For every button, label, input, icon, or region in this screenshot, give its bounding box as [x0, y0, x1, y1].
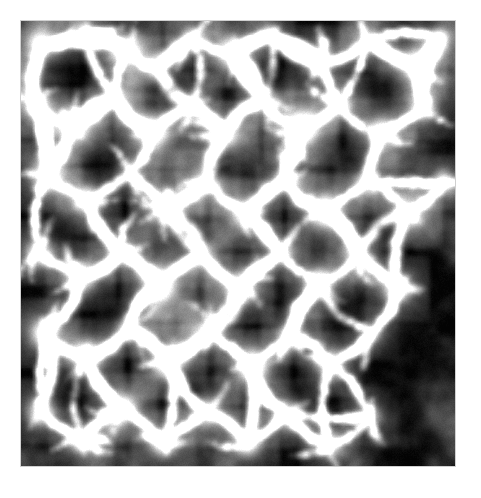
cosmic-web-image-plate	[21, 21, 455, 466]
figure-root: Grayscale projected density map of a cos…	[0, 0, 481, 498]
cosmic-web-density-map	[21, 21, 455, 466]
